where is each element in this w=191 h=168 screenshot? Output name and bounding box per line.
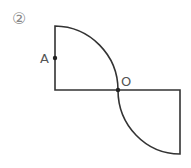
point-o-dot: [116, 88, 120, 92]
left-quarter-circle: [55, 26, 118, 90]
point-a-dot: [53, 56, 57, 60]
geometry-figure: ② A O: [0, 0, 191, 168]
right-quarter-circle: [118, 90, 180, 154]
point-a-label: A: [40, 51, 49, 66]
figure-number: ②: [12, 9, 26, 28]
point-o-label: O: [121, 74, 131, 89]
